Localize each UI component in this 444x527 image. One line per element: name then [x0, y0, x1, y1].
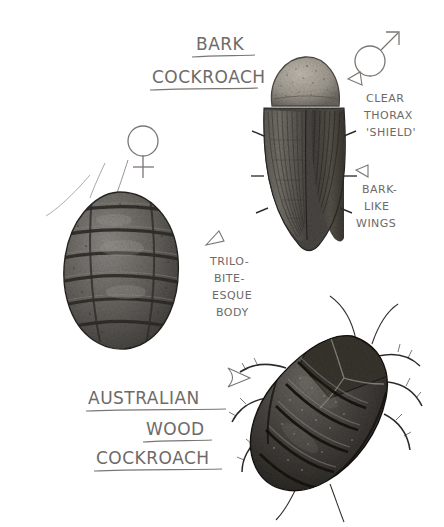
title-underline — [150, 88, 258, 90]
arrow-icon — [228, 368, 250, 387]
title-underline — [94, 469, 222, 471]
bark-cockroach-title-line-1: BARK — [196, 34, 245, 54]
bark-cockroach-title-line-2: COCKROACH — [152, 67, 266, 87]
arrow-icon — [356, 165, 368, 177]
annotation-trilobite-esque-body: TRILO- BITE- ESQUE BODY — [206, 231, 252, 319]
australian-wood-cockroach — [229, 296, 422, 522]
wood-title-line-2: WOOD — [146, 419, 205, 439]
title-underline — [143, 440, 212, 442]
male-symbol — [355, 32, 399, 76]
bark-cockroach-male — [251, 57, 357, 251]
clear-thorax-line-3: 'SHIELD' — [366, 126, 416, 139]
bark-like-wings-line-2: LIKE — [364, 200, 390, 213]
title-underline — [86, 409, 226, 411]
bark-cockroach-female — [58, 192, 188, 349]
annotation-clear-thorax-shield: CLEAR THORAX 'SHIELD' — [348, 72, 416, 139]
wood-cockroach-pointer — [228, 368, 250, 387]
wood-title-line-3: COCKROACH — [96, 448, 210, 468]
title-underline — [192, 55, 255, 57]
australian-wood-cockroach-title: AUSTRALIAN WOOD COCKROACH — [86, 388, 226, 471]
trilobite-line-1: TRILO- — [209, 255, 249, 268]
trilobite-line-3: ESQUE — [212, 289, 252, 302]
trilobite-line-2: BITE- — [214, 272, 245, 285]
trilobite-line-4: BODY — [216, 306, 249, 319]
clear-thorax-line-1: CLEAR — [366, 92, 404, 105]
bark-like-wings-line-1: BARK- — [362, 183, 397, 196]
wood-title-line-1: AUSTRALIAN — [88, 388, 200, 408]
bark-cockroach-title: BARK COCKROACH — [150, 34, 266, 90]
bark-like-wings-line-3: WINGS — [356, 217, 396, 230]
arrow-icon — [348, 72, 362, 85]
female-symbol — [128, 126, 158, 178]
clear-thorax-line-2: THORAX — [363, 109, 413, 122]
illustration-sheet: BARK COCKROACH AUSTRALIAN WOOD COCKROACH — [0, 0, 444, 527]
arrow-icon — [206, 231, 224, 245]
annotation-bark-like-wings: BARK- LIKE WINGS — [356, 165, 397, 230]
